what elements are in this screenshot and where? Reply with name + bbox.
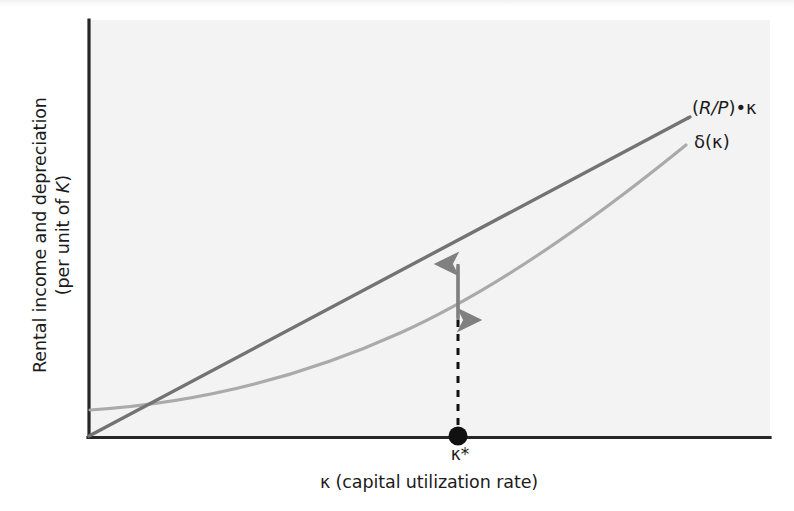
kstar-annotation-label: κ* bbox=[440, 444, 480, 464]
rental-income-line bbox=[89, 118, 688, 436]
series-label-rental-open: ( bbox=[692, 97, 699, 118]
kstar-point-marker bbox=[449, 427, 468, 446]
y-axis-label-line2-suffix: ) bbox=[53, 175, 73, 182]
series-label-rental-rp: R/P bbox=[699, 97, 728, 118]
y-axis-label-line2-prefix: (per unit of bbox=[53, 193, 73, 295]
rental-label-leader bbox=[688, 117, 690, 118]
y-axis-label: Rental income and depreciation (per unit… bbox=[29, 35, 75, 435]
series-label-rental-close: )•κ bbox=[728, 97, 756, 118]
y-axis-label-line2-italic: K bbox=[53, 182, 73, 193]
series-label-depreciation: δ(κ) bbox=[694, 131, 730, 152]
series-label-rental-income: (R/P)•κ bbox=[692, 97, 757, 118]
figure-chart-capital-utilization: Rental income and depreciation (per unit… bbox=[0, 0, 794, 511]
y-axis-label-line1: Rental income and depreciation bbox=[29, 35, 52, 435]
y-axis-label-line2: (per unit of K) bbox=[52, 35, 75, 435]
plot-svg bbox=[0, 0, 794, 511]
x-axis-label: κ (capital utilization rate) bbox=[88, 472, 770, 492]
